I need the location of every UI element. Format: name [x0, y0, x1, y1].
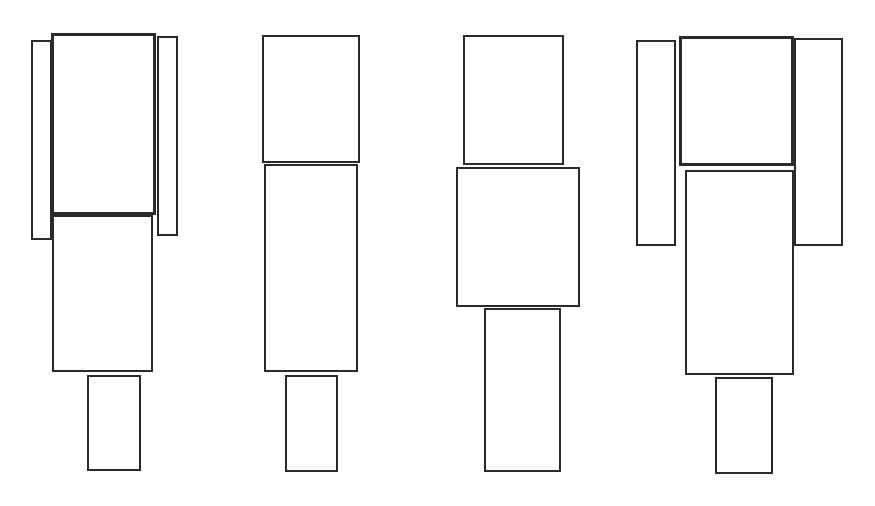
figure-4-left-side-rect [636, 40, 676, 246]
figure-3-middle-rect [456, 167, 580, 307]
diagram-canvas [0, 0, 875, 506]
figure-2-middle-rect [264, 164, 358, 372]
figure-1-middle-rect [52, 215, 153, 372]
figure-2-bottom-rect [285, 375, 338, 472]
figure-1-left-side-rect [31, 40, 52, 240]
figure-1-top-rect [51, 33, 156, 215]
figure-4-top-rect [679, 36, 794, 166]
figure-1-bottom-rect [87, 375, 141, 471]
figure-4-right-side-rect [794, 38, 843, 246]
figure-3-top-rect [463, 35, 564, 165]
figure-4-middle-rect [685, 170, 794, 375]
figure-3-bottom-rect [484, 308, 561, 472]
figure-1-right-side-rect [157, 36, 178, 236]
figure-4-bottom-rect [715, 377, 773, 474]
figure-2-top-rect [262, 35, 360, 163]
